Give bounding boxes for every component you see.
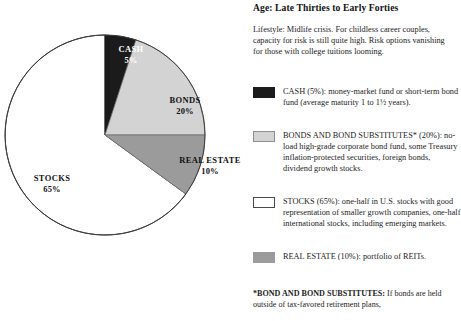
page-root: CASH 5% BONDS 20% REAL ESTATE 10% STOCKS… — [0, 0, 461, 321]
footnote: *BOND AND BOND SUBSTITUTES: If bonds are… — [253, 288, 459, 310]
legend-item-stocks[interactable]: STOCKS (65%): one-half in U.S. stocks wi… — [253, 196, 461, 229]
legend-item-cash[interactable]: CASH (5%): money-market fund or short-te… — [253, 86, 461, 108]
medium-gray-swatch-icon — [253, 252, 275, 263]
pie-label-real-estate: REAL ESTATE 10% — [175, 155, 245, 176]
pie-label-cash-value: 5% — [108, 55, 154, 66]
pie-label-bonds-name: BONDS — [169, 95, 200, 105]
black-filled-swatch-icon — [253, 87, 275, 98]
footnote-marker: *BOND AND BOND SUBSTITUTES: — [253, 289, 385, 298]
lifestyle-description: Lifestyle: Midlife crisis. For childless… — [253, 24, 453, 57]
legend-item-stocks-text: STOCKS (65%): one-half in U.S. stocks wi… — [283, 196, 461, 229]
pie-label-cash: CASH 5% — [108, 44, 154, 65]
pie-label-cash-name: CASH — [118, 44, 143, 54]
light-gray-swatch-icon — [253, 131, 275, 142]
panel-title: Age: Late Thirties to Early Forties — [253, 2, 461, 14]
pie-label-real-estate-value: 10% — [175, 166, 245, 177]
legend-item-real-estate[interactable]: REAL ESTATE (10%): portfolio of REITs. — [253, 251, 461, 263]
pie-label-stocks-value: 65% — [22, 184, 82, 195]
white-outline-swatch-icon — [253, 197, 275, 208]
legend-item-real-estate-text: REAL ESTATE (10%): portfolio of REITs. — [283, 251, 461, 262]
pie-label-real-estate-name: REAL ESTATE — [179, 155, 240, 165]
legend-item-bonds[interactable]: BONDS AND BOND SUBSTITUTES* (20%): no-lo… — [253, 130, 461, 174]
pie-label-bonds-value: 20% — [159, 106, 211, 117]
pie-label-bonds: BONDS 20% — [159, 95, 211, 116]
pie-label-stocks-name: STOCKS — [34, 173, 70, 183]
legend-item-cash-text: CASH (5%): money-market fund or short-te… — [283, 86, 461, 108]
info-panel: Age: Late Thirties to Early Forties Life… — [253, 0, 461, 321]
pie-label-stocks: STOCKS 65% — [22, 173, 82, 194]
pie-chart-panel: CASH 5% BONDS 20% REAL ESTATE 10% STOCKS… — [0, 0, 250, 321]
legend-item-bonds-text: BONDS AND BOND SUBSTITUTES* (20%): no-lo… — [283, 130, 461, 174]
